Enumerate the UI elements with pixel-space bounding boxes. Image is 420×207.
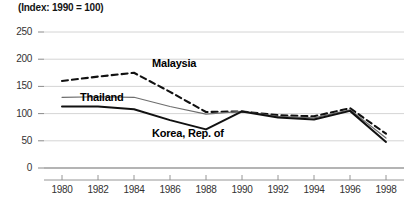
y-tick-label: 250 xyxy=(2,26,32,37)
y-tick-label: 100 xyxy=(2,108,32,119)
x-tick-label: 1986 xyxy=(153,184,187,195)
x-tick-label: 1980 xyxy=(45,184,79,195)
plot-area xyxy=(0,0,420,207)
y-tick-label: 150 xyxy=(2,80,32,91)
x-tick-label: 1988 xyxy=(189,184,223,195)
y-tick-label: 50 xyxy=(2,135,32,146)
series-label-korea-rep-of: Korea, Rep. of xyxy=(152,127,224,139)
x-tick-label: 1982 xyxy=(81,184,115,195)
x-tick-label: 1998 xyxy=(369,184,403,195)
y-tick-label: 200 xyxy=(2,53,32,64)
x-tick-label: 1984 xyxy=(117,184,151,195)
data-series-group xyxy=(62,73,386,142)
series-label-malaysia: Malaysia xyxy=(152,57,196,69)
series-label-thailand: Thailand xyxy=(80,91,124,103)
x-tick-label: 1990 xyxy=(225,184,259,195)
x-tick-label: 1996 xyxy=(333,184,367,195)
chart-container: (Index: 1990 = 100) 050100150200250 1980… xyxy=(0,0,420,207)
x-tick-label: 1992 xyxy=(261,184,295,195)
y-tick-label: 0 xyxy=(2,162,32,173)
x-tick-marks xyxy=(62,175,386,180)
x-tick-label: 1994 xyxy=(297,184,331,195)
